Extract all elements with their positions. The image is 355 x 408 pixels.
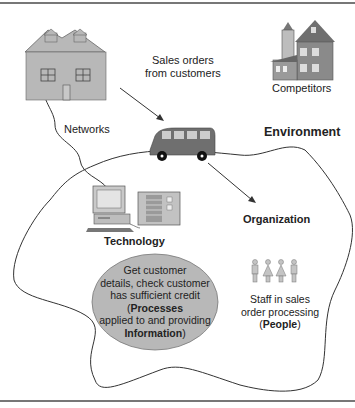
sales-orders-label: Sales orders from customers: [145, 54, 221, 80]
people-line1: Staff in sales: [240, 293, 320, 306]
competitors-label: Competitors: [272, 82, 331, 95]
processes-text: Get customer details, check customer has…: [92, 264, 218, 339]
paren-close: ): [182, 327, 186, 339]
arrow-head-icon: [156, 114, 164, 121]
information-term: Information: [124, 327, 182, 339]
sales-orders-line2: from customers: [145, 67, 221, 80]
delivery-van-icon: [150, 128, 215, 161]
processes-line4: (Processes: [92, 302, 218, 315]
people-line2: order processing: [240, 306, 320, 319]
computer-icon: [86, 186, 140, 232]
processes-line2: details, check customer: [92, 277, 218, 290]
people-line3: (People): [240, 318, 320, 331]
processes-line5: applied to and providing: [92, 314, 218, 327]
paren-close: ): [297, 318, 301, 330]
organization-label: Organization: [243, 213, 310, 226]
processes-term: Processes: [130, 302, 183, 314]
people-icon: [252, 260, 297, 283]
processes-line1: Get customer: [92, 264, 218, 277]
sales-orders-line1: Sales orders: [145, 54, 221, 67]
networks-label: Networks: [64, 123, 110, 136]
competitors-building-icon: [270, 20, 335, 80]
server-icon: [138, 192, 180, 225]
people-term: People: [263, 318, 297, 330]
technology-label: Technology: [104, 235, 165, 248]
environment-label: Environment: [264, 126, 340, 139]
processes-line3: has sufficient credit: [92, 289, 218, 302]
people-text: Staff in sales order processing (People): [240, 293, 320, 331]
processes-line6: Information): [92, 327, 218, 340]
customer-house-icon: [25, 29, 106, 100]
